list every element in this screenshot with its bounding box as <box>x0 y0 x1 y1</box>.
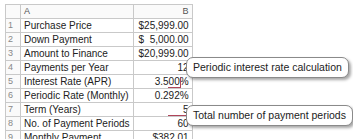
row-number[interactable]: 3 <box>6 47 21 61</box>
cell-a2[interactable]: Down Payment <box>21 33 134 47</box>
table-row: 9 Monthly Payment $382.01 <box>6 131 193 140</box>
cell-b8[interactable]: 60 <box>133 117 192 131</box>
connector-line-payment-periods <box>168 115 188 116</box>
table-row: 8 No. of Payment Periods 60 <box>6 117 193 131</box>
cell-a1[interactable]: Purchase Price <box>21 19 134 33</box>
row-number[interactable]: 6 <box>6 89 21 103</box>
row-number[interactable]: 9 <box>6 131 21 140</box>
column-header-a[interactable]: A <box>21 5 134 19</box>
cell-a9[interactable]: Monthly Payment <box>21 131 134 140</box>
callout-periodic-rate: Periodic interest rate calculation <box>186 57 349 78</box>
cell-a6[interactable]: Periodic Rate (Monthly) <box>21 89 134 103</box>
row-number[interactable]: 5 <box>6 75 21 89</box>
cell-b3[interactable]: $20,999.00 <box>133 47 192 61</box>
table-row: 5 Interest Rate (APR) 3.500% <box>6 75 193 89</box>
cell-a4[interactable]: Payments per Year <box>21 61 134 75</box>
table-row: 7 Term (Years) 5 <box>6 103 193 117</box>
cell-b6[interactable]: 0.292% <box>133 89 192 103</box>
cell-a7[interactable]: Term (Years) <box>21 103 134 117</box>
cell-a5[interactable]: Interest Rate (APR) <box>21 75 134 89</box>
cell-b2[interactable]: $ 5,000.00 <box>133 33 192 47</box>
cell-b5[interactable]: 3.500% <box>133 75 192 89</box>
select-all-corner[interactable] <box>6 5 21 19</box>
table-row: 3 Amount to Finance $20,999.00 <box>6 47 193 61</box>
callout-payment-periods: Total number of payment periods <box>186 105 353 126</box>
cell-b1[interactable]: $25,999.00 <box>133 19 192 33</box>
column-header-row: A B <box>6 5 193 19</box>
cell-b9[interactable]: $382.01 <box>133 131 192 140</box>
cell-a3[interactable]: Amount to Finance <box>21 47 134 61</box>
row-number[interactable]: 8 <box>6 117 21 131</box>
table-row: 4 Payments per Year 12 <box>6 61 193 75</box>
row-number[interactable]: 1 <box>6 19 21 33</box>
connector-line-periodic-rate <box>168 87 180 88</box>
column-header-b[interactable]: B <box>133 5 192 19</box>
row-number[interactable]: 7 <box>6 103 21 117</box>
spreadsheet-grid: A B 1 Purchase Price $25,999.00 2 Down P… <box>5 4 193 139</box>
table-row: 1 Purchase Price $25,999.00 <box>6 19 193 33</box>
cell-a8[interactable]: No. of Payment Periods <box>21 117 134 131</box>
connector-line-periodic-rate-vertical <box>180 77 181 88</box>
table-row: 6 Periodic Rate (Monthly) 0.292% <box>6 89 193 103</box>
row-number[interactable]: 4 <box>6 61 21 75</box>
cell-b4[interactable]: 12 <box>133 61 192 75</box>
row-number[interactable]: 2 <box>6 33 21 47</box>
table-row: 2 Down Payment $ 5,000.00 <box>6 33 193 47</box>
